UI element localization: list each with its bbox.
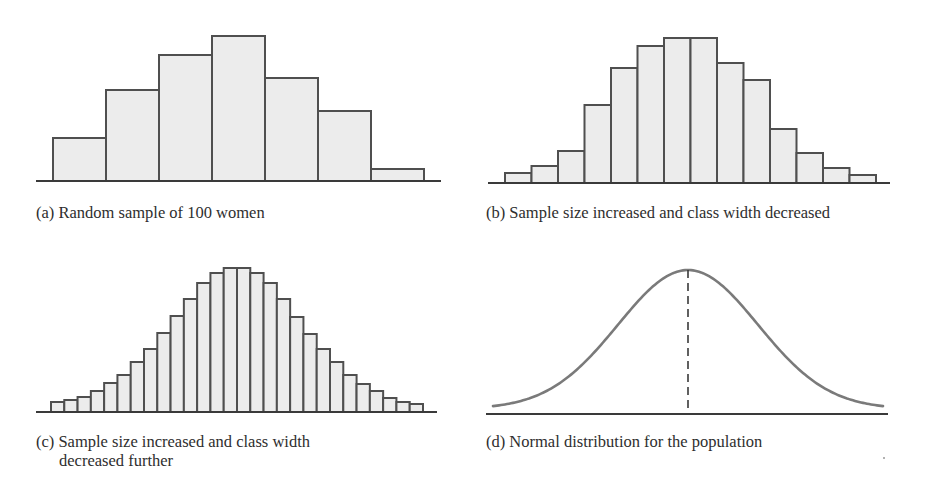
normal-curve-d — [0, 0, 939, 430]
print-speck — [883, 457, 885, 459]
caption-d: (d) Normal distribution for the populati… — [486, 432, 762, 451]
caption-d-line1: (d) Normal distribution for the populati… — [486, 432, 762, 451]
panel-d: (d) Normal distribution for the populati… — [0, 0, 939, 489]
